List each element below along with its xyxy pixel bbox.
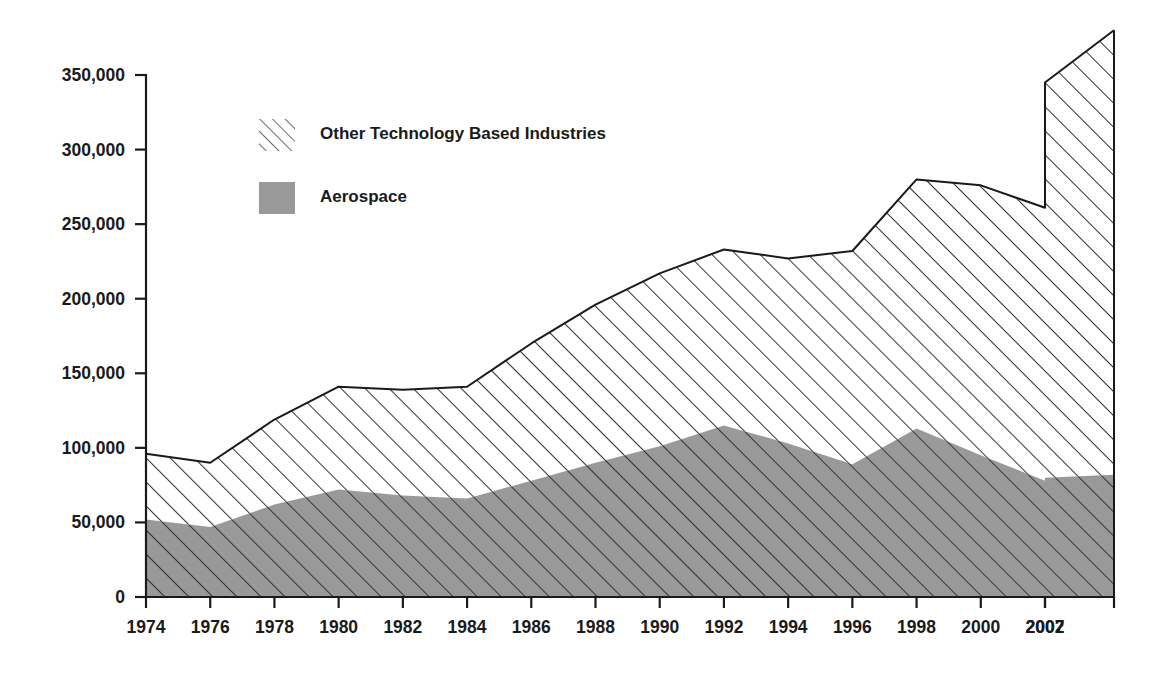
x-tick-label: 1986 [512, 617, 551, 637]
x-tick-label: 1996 [833, 617, 872, 637]
legend-swatch-aerospace [259, 182, 295, 214]
legend-swatch-hatch [259, 119, 295, 151]
y-tick-label: 50,000 [71, 512, 125, 532]
chart-container: 050,000100,000150,000200,000250,000300,0… [0, 0, 1155, 675]
x-tick-label: 1992 [704, 617, 743, 637]
x-tick-label: 1990 [640, 617, 679, 637]
y-tick-label: 150,000 [62, 363, 126, 383]
y-tick-label: 200,000 [62, 289, 126, 309]
x-tick-label: 1984 [448, 617, 487, 637]
x-tick-label: 1974 [127, 617, 166, 637]
x-tick-label: 2000 [961, 617, 1000, 637]
x-axis-tick-labels: 1974197619781980198219841986198819901992… [127, 617, 1065, 637]
x-tick-label: 1976 [191, 617, 230, 637]
x-tick-label: 2007 [1026, 617, 1065, 637]
y-tick-label: 300,000 [62, 140, 126, 160]
x-tick-label: 1988 [576, 617, 615, 637]
x-tick-label: 1982 [383, 617, 422, 637]
legend-label-other-technology-based-industries: Other Technology Based Industries [320, 124, 606, 143]
legend-label-aerospace: Aerospace [320, 187, 407, 206]
stacked-area-chart: 050,000100,000150,000200,000250,000300,0… [0, 0, 1155, 675]
y-tick-label: 250,000 [62, 214, 126, 234]
x-tick-label: 1998 [897, 617, 936, 637]
x-tick-label: 1994 [769, 617, 808, 637]
y-tick-label: 100,000 [62, 438, 126, 458]
x-tick-label: 1978 [255, 617, 294, 637]
x-tick-label: 1980 [319, 617, 358, 637]
y-tick-label: 350,000 [62, 65, 126, 85]
y-tick-label: 0 [115, 587, 125, 607]
